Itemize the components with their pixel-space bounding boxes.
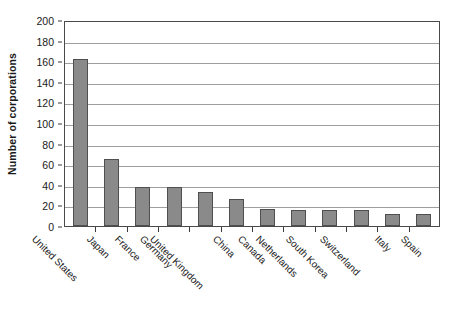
bar-chart-figure: Number of corporations 02040608010012014… [0,0,454,310]
y-tick-mark [58,41,62,42]
y-tick-label: 140 [36,78,54,89]
bar[interactable] [167,187,182,226]
bar-slot [96,22,127,226]
y-tick-label: 80 [42,139,54,150]
bar-slot [408,22,439,226]
y-tick-mark [58,227,62,228]
y-tick-mark [58,144,62,145]
bar-slot [314,22,345,226]
y-tick-label: 20 [42,201,54,212]
bars-layer [65,22,439,226]
x-tick-label: Italy [373,234,393,254]
bar[interactable] [229,199,244,226]
y-tick-mark [58,21,62,22]
y-tick-label: 0 [48,222,54,233]
y-tick-mark [58,165,62,166]
bar[interactable] [135,187,150,226]
bar-slot [127,22,158,226]
bar-slot [190,22,221,226]
x-tick-label: United States [30,234,80,284]
y-tick-label: 120 [36,98,54,109]
y-axis-title: Number of corporations [0,0,24,228]
bar[interactable] [291,210,306,226]
y-tick-mark [58,103,62,104]
bar-slot [65,22,96,226]
bar[interactable] [354,210,369,226]
bar[interactable] [416,214,431,226]
y-tick-label: 100 [36,119,54,130]
y-tick-label: 60 [42,160,54,171]
x-tick-label: Japan [85,234,111,260]
y-tick-mark [58,185,62,186]
y-tick-label: 160 [36,57,54,68]
x-tick-label: Spain [399,234,424,259]
bar-slot [283,22,314,226]
bar[interactable] [260,209,275,227]
bar-slot [252,22,283,226]
y-axis-tick-labels: 020406080100120140160180200 [22,21,58,227]
y-tick-mark [58,82,62,83]
x-axis-tick-labels: United StatesJapanFranceGermanyUnited Ki… [0,232,454,310]
bar[interactable] [73,59,88,226]
bar[interactable] [198,192,213,226]
x-tick-label: France [113,234,142,263]
bar[interactable] [104,159,119,226]
y-tick-mark [58,206,62,207]
y-tick-mark [58,62,62,63]
bar-slot [159,22,190,226]
x-tick-label: China [211,234,237,260]
bar-slot [377,22,408,226]
y-axis-title-label: Number of corporations [6,53,18,175]
x-tick-label: United Kingdom [148,234,205,291]
y-tick-label: 180 [36,36,54,47]
bar-slot [346,22,377,226]
bar[interactable] [322,210,337,226]
y-tick-mark [58,124,62,125]
y-tick-label: 40 [42,181,54,192]
bar-slot [221,22,252,226]
plot-area [64,21,440,227]
bar[interactable] [385,214,400,226]
y-tick-label: 200 [36,16,54,27]
